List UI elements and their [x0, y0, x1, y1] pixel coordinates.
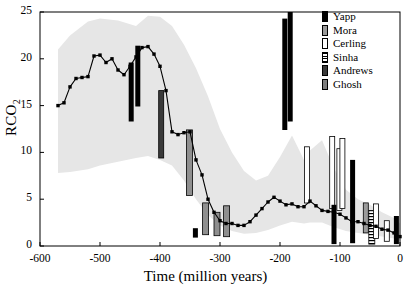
x-tick--400: -400: [137, 252, 183, 264]
y-tick-5: 5: [6, 191, 32, 203]
legend-label-cerling: Cerling: [333, 38, 366, 49]
x-axis-label: Time (million years): [0, 268, 411, 285]
legend-item-mora: Mora: [322, 24, 373, 37]
legend-swatch-sinha-icon: [322, 52, 328, 63]
legend-item-ghosh: Ghosh: [322, 78, 373, 91]
legend-item-cerling: Cerling: [322, 37, 373, 50]
y-tick-0: 0: [6, 238, 32, 250]
x-tick--100: -100: [317, 252, 363, 264]
legend-label-sinha: Sinha: [333, 52, 358, 63]
y-tick-10: 10: [6, 144, 32, 156]
legend-swatch-andrews-icon: [322, 65, 328, 76]
legend-item-sinha: Sinha: [322, 51, 373, 64]
legend-swatch-ghosh-icon: [322, 79, 328, 90]
y-tick-15: 15: [6, 98, 32, 110]
x-tick-0: 0: [377, 252, 411, 264]
x-tick--300: -300: [197, 252, 243, 264]
legend-swatch-mora-icon: [322, 25, 328, 36]
x-tick--500: -500: [77, 252, 123, 264]
y-tick-25: 25: [6, 4, 32, 16]
legend-item-yapp: Yapp: [322, 10, 373, 23]
chart-legend: Yapp Mora Cerling Sinha Andrews Ghosh: [322, 10, 373, 91]
legend-label-mora: Mora: [333, 25, 357, 36]
y-axis-label: RCO2: [3, 88, 22, 148]
y-tick-20: 20: [6, 51, 32, 63]
legend-swatch-cerling-icon: [322, 38, 328, 49]
x-tick--600: -600: [17, 252, 63, 264]
rco2-time-chart: RCO2 Time (million years) 2520151050 -60…: [0, 0, 411, 291]
legend-label-yapp: Yapp: [333, 11, 356, 22]
legend-label-ghosh: Ghosh: [333, 79, 362, 90]
legend-swatch-yapp-icon: [322, 11, 328, 22]
x-tick--200: -200: [257, 252, 303, 264]
legend-label-andrews: Andrews: [333, 65, 373, 76]
legend-item-andrews: Andrews: [322, 64, 373, 77]
